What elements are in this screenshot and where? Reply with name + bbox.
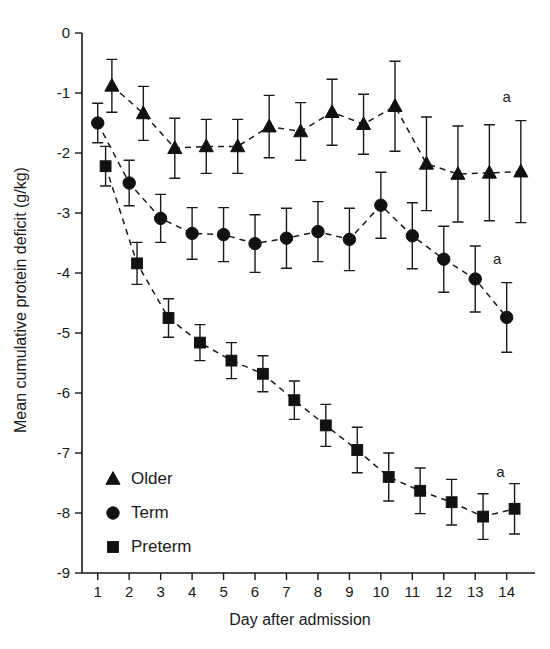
legend-marker-triangle: [106, 472, 120, 485]
marker-square: [446, 497, 457, 508]
legend-marker-circle: [107, 507, 119, 519]
annotation-superscript-a: a: [496, 463, 505, 480]
marker-square: [478, 511, 489, 522]
x-tick-label: 6: [251, 583, 259, 600]
x-tick-label: 12: [435, 583, 452, 600]
marker-triangle: [357, 117, 371, 130]
x-tick-label: 3: [156, 583, 164, 600]
legend-label: Preterm: [131, 537, 191, 556]
series-term: [92, 103, 513, 352]
x-tick-label: 9: [345, 583, 353, 600]
x-tick-label: 10: [373, 583, 390, 600]
marker-triangle: [105, 78, 119, 91]
marker-triangle: [514, 164, 528, 177]
x-tick-label: 4: [188, 583, 196, 600]
marker-circle: [249, 237, 261, 249]
marker-triangle: [294, 124, 308, 137]
marker-circle: [469, 273, 481, 285]
marker-circle: [123, 177, 135, 189]
x-tick-label: 11: [405, 583, 421, 600]
y-axis-ticks: 0-1-2-3-4-5-6-7-8-9: [57, 24, 82, 581]
y-tick-label: -9: [57, 564, 70, 581]
marker-triangle: [388, 99, 402, 112]
legend-item-older: Older: [106, 469, 173, 488]
x-axis-ticks: 1234567891011121314: [94, 573, 515, 600]
marker-circle: [154, 212, 166, 224]
marker-square: [257, 368, 268, 379]
chart-figure: 0-1-2-3-4-5-6-7-8-9 1234567891011121314 …: [0, 0, 550, 649]
y-tick-label: -3: [57, 204, 70, 221]
legend-marker-square: [108, 542, 119, 553]
marker-circle: [217, 228, 229, 240]
chart-svg: 0-1-2-3-4-5-6-7-8-9 1234567891011121314 …: [0, 0, 550, 649]
y-tick-label: -1: [57, 84, 70, 101]
marker-square: [226, 355, 237, 366]
marker-square: [195, 337, 206, 348]
chart-legend: OlderTermPreterm: [106, 469, 191, 556]
y-tick-label: -7: [57, 444, 70, 461]
legend-item-term: Term: [107, 503, 169, 522]
data-series: [92, 59, 528, 539]
marker-triangle: [262, 119, 276, 132]
marker-square: [163, 313, 174, 324]
series-connector: [112, 86, 521, 174]
marker-circle: [280, 232, 292, 244]
marker-triangle: [136, 106, 150, 119]
marker-triangle: [231, 139, 245, 152]
marker-triangle: [199, 139, 213, 152]
marker-square: [320, 420, 331, 431]
marker-square: [383, 472, 394, 483]
marker-square: [415, 485, 426, 496]
x-tick-label: 13: [467, 583, 484, 600]
marker-square: [100, 161, 111, 172]
x-tick-label: 5: [219, 583, 227, 600]
x-axis-title: Day after admission: [229, 611, 370, 628]
y-axis-title: Mean cumulative protein deficit (g/kg): [12, 167, 29, 433]
y-tick-label: 0: [62, 24, 70, 41]
marker-circle: [186, 227, 198, 239]
marker-square: [352, 445, 363, 456]
marker-circle: [312, 225, 324, 237]
marker-circle: [500, 311, 512, 323]
marker-circle: [438, 253, 450, 265]
y-tick-label: -2: [57, 144, 70, 161]
y-tick-label: -6: [57, 384, 70, 401]
y-tick-label: -5: [57, 324, 70, 341]
significance-annotations: aaa: [493, 88, 511, 480]
x-tick-label: 2: [125, 583, 133, 600]
legend-label: Term: [131, 503, 169, 522]
marker-triangle: [482, 165, 496, 178]
series-older: [105, 59, 528, 222]
legend-item-preterm: Preterm: [108, 537, 192, 556]
y-tick-label: -4: [57, 264, 70, 281]
x-tick-label: 1: [94, 583, 102, 600]
marker-square: [289, 395, 300, 406]
marker-square: [509, 503, 520, 514]
axes: [82, 33, 535, 573]
x-tick-label: 14: [498, 583, 515, 600]
marker-circle: [406, 230, 418, 242]
marker-square: [132, 258, 143, 269]
x-tick-label: 7: [282, 583, 290, 600]
marker-triangle: [325, 105, 339, 118]
axis-frame: [82, 33, 535, 573]
marker-circle: [92, 117, 104, 129]
marker-circle: [375, 199, 387, 211]
marker-triangle: [419, 156, 433, 169]
legend-label: Older: [131, 469, 173, 488]
annotation-superscript-a: a: [493, 250, 502, 267]
y-tick-label: -8: [57, 504, 70, 521]
annotation-superscript-a: a: [503, 88, 512, 105]
x-tick-label: 8: [314, 583, 322, 600]
marker-circle: [343, 233, 355, 245]
